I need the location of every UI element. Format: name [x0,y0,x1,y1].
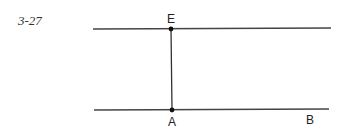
diagram-canvas: 3-27 E A B [0,0,344,132]
point-a [170,108,175,113]
point-e [169,27,174,32]
top-line [93,28,331,29]
point-a-label: A [168,115,176,129]
point-b-label: B [306,113,314,127]
bottom-line [94,109,329,110]
point-e-label: E [167,12,175,26]
segment-ea [171,29,172,110]
figure-label: 3-27 [17,13,42,28]
